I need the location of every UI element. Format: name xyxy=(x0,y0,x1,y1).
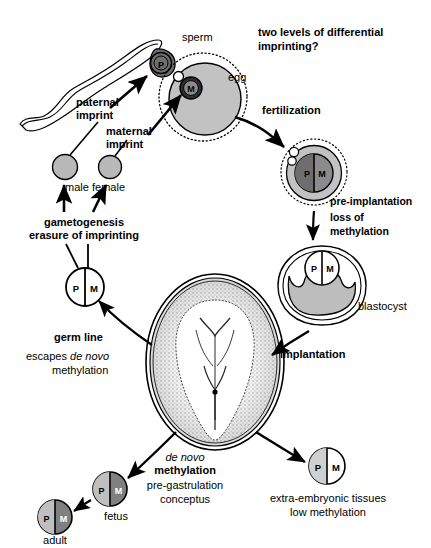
paternal-imprint-line2: imprint xyxy=(76,109,113,121)
arrow-germ-line xyxy=(99,301,152,345)
pre-implantation-line3: methylation xyxy=(330,226,389,238)
sperm-nucleus-letter: P xyxy=(158,60,164,70)
escapes-methylation-line: methylation xyxy=(52,364,108,376)
escapes-word: escapes xyxy=(26,350,70,362)
male-precursor-cell xyxy=(53,155,78,180)
conceptus-embryo xyxy=(146,274,284,450)
fertilization-label: fertilization xyxy=(262,104,321,116)
blastocyst-paternal-letter: P xyxy=(311,264,317,274)
gametogenesis-label: gametogenesis xyxy=(44,216,124,228)
extraembryonic-paternal-letter: P xyxy=(315,462,322,473)
fetus-paternal-letter: P xyxy=(98,486,104,496)
erasure-label: erasure of imprinting xyxy=(29,229,139,241)
male-label: male xyxy=(65,181,89,193)
pre-gastrulation-label: pre-gastrulation xyxy=(147,479,223,491)
two-levels-line2: imprinting? xyxy=(258,40,319,52)
germline-maternal-letter: M xyxy=(90,283,98,294)
zygote-paternal-letter: P xyxy=(304,169,310,179)
pre-implantation-line1: pre-implantation xyxy=(330,196,412,208)
blastocyst-label: blastocyst xyxy=(358,300,407,312)
implantation-label: implantation xyxy=(280,348,345,360)
de-novo-italic-1: de novo xyxy=(70,350,109,362)
blastocyst-cell xyxy=(278,246,366,325)
two-levels-line1: two levels of differential xyxy=(258,26,383,38)
egg-cell xyxy=(159,53,247,141)
maternal-imprint-line2: imprint xyxy=(106,138,143,150)
germ-line-label: germ line xyxy=(54,331,103,343)
egg-label: egg xyxy=(228,71,246,83)
germ-line-cell xyxy=(66,268,104,306)
de-novo-italic-2: de novo xyxy=(165,451,204,463)
fetus-label: fetus xyxy=(104,510,128,522)
extra-embryonic-line1: extra-embryonic tissues xyxy=(270,492,386,504)
zygote-maternal-letter: M xyxy=(318,169,326,179)
de-novo-methylation-label: methylation xyxy=(154,464,216,476)
line-male-to-paternal-imprint xyxy=(70,122,98,155)
extra-embryonic-line2: low methylation xyxy=(290,506,366,518)
line-germline-to-gametogenesis-left xyxy=(66,244,78,268)
pre-implantation-line2: loss of xyxy=(330,212,364,224)
escapes-de-novo-line: escapes de novo xyxy=(26,350,109,362)
arrow-pre-implantation xyxy=(313,211,314,240)
arrow-fertilization xyxy=(235,117,284,147)
fetus-maternal-letter: M xyxy=(115,486,123,496)
adult-maternal-letter: M xyxy=(60,514,68,524)
blastocyst-maternal-letter: M xyxy=(326,264,334,274)
arrow-extra-embryonic xyxy=(256,432,305,462)
imprinting-cycle-figure: P M P M P M xyxy=(0,0,431,548)
germline-paternal-letter: P xyxy=(73,283,80,294)
female-precursor-cell xyxy=(99,156,122,179)
extraembryonic-maternal-letter: M xyxy=(332,462,340,473)
adult-paternal-letter: P xyxy=(43,514,49,524)
egg-nucleus-letter: M xyxy=(187,84,195,94)
conceptus-label: conceptus xyxy=(160,493,210,505)
arrow-fetus-to-adult xyxy=(74,500,91,511)
sperm-label: sperm xyxy=(182,31,213,43)
female-label: female xyxy=(92,181,125,193)
paternal-imprint-line1: paternal xyxy=(76,96,119,108)
adult-label: adult xyxy=(43,534,67,546)
maternal-imprint-line1: maternal xyxy=(106,125,152,137)
